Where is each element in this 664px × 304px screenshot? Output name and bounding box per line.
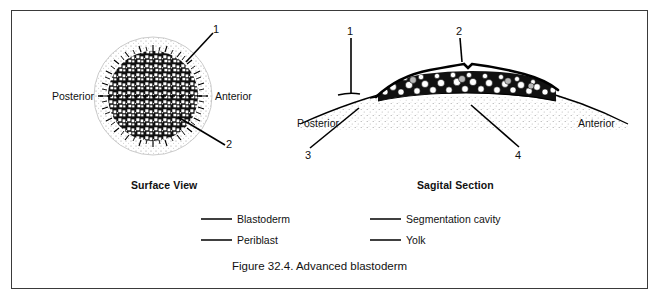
figure-artwork <box>0 0 664 304</box>
legend-label-segmentation-cavity: Segmentation cavity <box>406 214 501 225</box>
surface-callout-1-leader <box>186 33 213 62</box>
legend-label-yolk: Yolk <box>406 235 425 246</box>
surface-view-drawing <box>94 33 225 155</box>
sagital-callout-2-leader <box>460 38 462 62</box>
sagital-posterior-edge <box>370 97 376 98</box>
surface-view-callout-1-number: 1 <box>213 24 219 35</box>
sagital-callout-1-underline <box>338 93 360 95</box>
figure-caption: Figure 32.4. Advanced blastoderm <box>232 261 407 273</box>
legend-label-blastoderm: Blastoderm <box>237 214 290 225</box>
legend-answer-lines <box>201 219 401 240</box>
sagital-section-posterior-label: Posterior <box>297 118 339 129</box>
surface-view-posterior-label: Posterior <box>52 91 94 102</box>
sagital-section-callout-4-number: 4 <box>515 150 521 161</box>
surface-view-title: Surface View <box>131 180 197 191</box>
figure-container: Posterior Anterior 1 2 Surface View Post… <box>0 0 664 304</box>
sagital-section-callout-1-number: 1 <box>347 26 353 37</box>
sagital-section-anterior-label: Anterior <box>578 118 615 129</box>
sagital-section-callout-3-number: 3 <box>305 150 311 161</box>
sagital-section-drawing <box>300 38 628 148</box>
legend-label-periblast: Periblast <box>237 235 278 246</box>
surface-view-anterior-label: Anterior <box>215 91 252 102</box>
sagital-section-title: Sagital Section <box>417 180 494 191</box>
surface-view-callout-2-number: 2 <box>226 139 232 150</box>
sagital-section-callout-2-number: 2 <box>456 26 462 37</box>
